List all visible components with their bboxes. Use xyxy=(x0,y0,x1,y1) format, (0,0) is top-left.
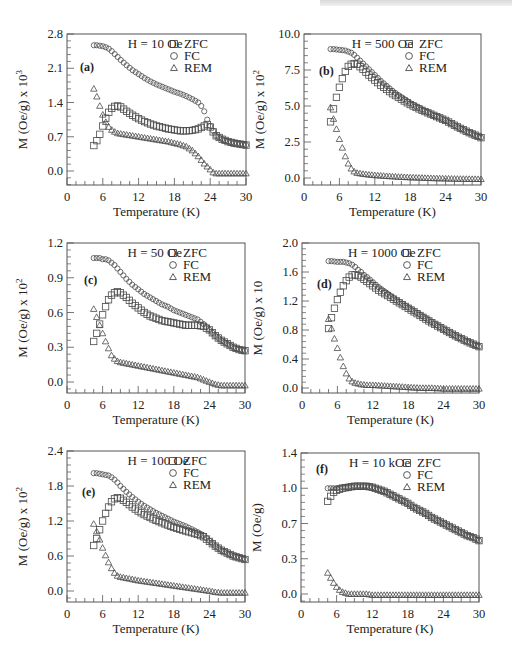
x-tick-label: 6 xyxy=(99,607,105,621)
field-label: H = 50 Oe xyxy=(128,245,183,260)
triangle-marker-icon xyxy=(170,274,177,280)
series-rem xyxy=(91,86,250,176)
circle-marker-icon xyxy=(170,262,177,269)
square-marker-icon xyxy=(339,75,345,81)
y-tick-label: 0.7 xyxy=(47,130,63,144)
triangle-marker-icon xyxy=(352,380,358,386)
x-tick-label: 18 xyxy=(404,190,417,204)
circle-marker-icon xyxy=(121,273,126,278)
square-marker-icon xyxy=(337,289,343,295)
triangle-marker-icon xyxy=(334,345,340,351)
legend-label: REM xyxy=(417,479,446,494)
y-axis-label: M (Oe/g) x 102 xyxy=(14,278,30,357)
panel-label: (e) xyxy=(82,485,95,499)
panel-label: (c) xyxy=(84,273,97,287)
circle-marker-icon xyxy=(181,92,186,97)
x-tick-label: 18 xyxy=(402,607,415,621)
circle-marker-icon xyxy=(100,44,105,49)
field-label: H = 1000 Oe xyxy=(348,245,416,260)
triangle-marker-icon xyxy=(342,153,348,159)
triangle-marker-icon xyxy=(108,565,114,571)
y-tick-label: 10.0 xyxy=(278,27,300,41)
square-marker-icon xyxy=(336,84,342,90)
circle-marker-icon xyxy=(346,49,351,54)
circle-marker-icon xyxy=(118,483,123,488)
x-tick-label: 18 xyxy=(168,607,181,621)
x-tick-label: 30 xyxy=(239,607,252,621)
plot-frame xyxy=(67,34,246,185)
circle-marker-icon xyxy=(184,94,189,99)
circle-marker-icon xyxy=(160,84,165,89)
panel-b: 06121824300.02.55.07.510.0Temperature (K… xyxy=(251,27,487,219)
y-tick-label: 1.8 xyxy=(47,479,63,493)
triangle-marker-icon xyxy=(336,136,342,142)
circle-marker-icon xyxy=(406,53,413,60)
y-tick-label: 5.0 xyxy=(284,99,300,113)
circle-marker-icon xyxy=(170,470,177,477)
circle-marker-icon xyxy=(103,45,108,50)
triangle-marker-icon xyxy=(339,145,345,151)
panel-f: 06121824300.00.30.71.01.4Temperature (K)… xyxy=(249,446,485,636)
circle-marker-icon xyxy=(118,269,123,274)
x-tick-label: 24 xyxy=(437,607,450,621)
triangle-marker-icon xyxy=(171,65,178,71)
triangle-marker-icon xyxy=(96,322,102,328)
circle-marker-icon xyxy=(151,80,156,85)
circle-marker-icon xyxy=(177,310,182,315)
field-label: H = 500 Oe xyxy=(352,36,413,51)
y-tick-label: 1.4 xyxy=(281,446,297,460)
x-tick-label: 12 xyxy=(132,607,145,621)
series-rem xyxy=(327,104,484,181)
y-axis-label: M (Oe/g) x 10 xyxy=(250,281,265,356)
square-marker-icon xyxy=(333,94,339,100)
circle-marker-icon xyxy=(115,480,120,485)
y-tick-label: 0.0 xyxy=(281,587,297,601)
y-tick-label: 1.2 xyxy=(47,514,63,528)
triangle-marker-icon xyxy=(99,330,105,336)
triangle-marker-icon xyxy=(404,274,411,280)
y-tick-label: 2.4 xyxy=(47,444,63,458)
circle-marker-icon xyxy=(115,266,120,271)
y-tick-label: 0.6 xyxy=(47,549,63,563)
triangle-marker-icon xyxy=(94,93,100,99)
series-rem xyxy=(91,521,249,595)
x-tick-label: 0 xyxy=(298,607,304,621)
circle-marker-icon xyxy=(189,315,194,320)
y-tick-label: 2.8 xyxy=(47,27,63,41)
triangle-marker-icon xyxy=(99,545,105,551)
circle-marker-icon xyxy=(163,85,168,90)
circle-marker-icon xyxy=(404,472,411,479)
triangle-marker-icon xyxy=(340,363,346,369)
panel-label: (f) xyxy=(316,462,328,476)
x-tick-label: 18 xyxy=(168,398,181,412)
circle-marker-icon xyxy=(178,91,183,96)
triangle-marker-icon xyxy=(115,130,121,136)
circle-marker-icon xyxy=(127,279,132,284)
square-marker-icon xyxy=(331,305,337,311)
y-tick-label: 7.5 xyxy=(284,63,300,77)
figure: 06121824300.00.71.42.12.8Temperature (K)… xyxy=(0,0,512,661)
x-tick-label: 24 xyxy=(203,398,216,412)
circle-marker-icon xyxy=(169,88,174,93)
x-tick-label: 30 xyxy=(239,398,252,412)
circle-marker-icon xyxy=(157,83,162,88)
legend-label: REM xyxy=(183,269,212,284)
square-marker-icon xyxy=(99,312,105,318)
field-label: H = 10 kOe xyxy=(349,455,410,470)
circle-marker-icon xyxy=(171,53,178,60)
triangle-marker-icon xyxy=(93,314,99,320)
triangle-marker-icon xyxy=(325,570,331,576)
x-tick-label: 24 xyxy=(204,190,217,204)
square-marker-icon xyxy=(334,296,340,302)
triangle-marker-icon xyxy=(102,338,108,344)
triangle-marker-icon xyxy=(170,482,177,488)
x-tick-label: 6 xyxy=(336,190,342,204)
legend-label: REM xyxy=(183,477,212,492)
y-tick-label: 0.9 xyxy=(47,271,63,285)
x-tick-label: 12 xyxy=(366,607,379,621)
triangle-marker-icon xyxy=(404,484,411,490)
square-marker-icon xyxy=(102,304,108,310)
x-axis-label: Temperature (K) xyxy=(113,412,200,427)
square-marker-icon xyxy=(91,542,97,548)
x-tick-label: 6 xyxy=(333,607,339,621)
